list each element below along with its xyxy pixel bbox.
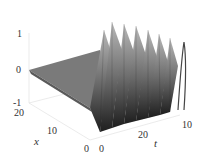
oscillation-ridges bbox=[90, 22, 186, 132]
t-tick-10: 10 bbox=[182, 120, 192, 130]
z-tick-0: 0 bbox=[16, 65, 21, 75]
x-tick-10: 10 bbox=[47, 126, 57, 136]
x-axis-label: x bbox=[34, 136, 39, 147]
z-tick-1: 1 bbox=[17, 29, 22, 39]
t-tick-0: 0 bbox=[99, 144, 104, 154]
surface-plot bbox=[0, 0, 200, 163]
x-tick-0: 0 bbox=[84, 144, 89, 154]
x-tick-20: 20 bbox=[14, 108, 24, 118]
t-tick-20: 20 bbox=[138, 130, 148, 140]
t-axis-label: t bbox=[154, 138, 157, 149]
